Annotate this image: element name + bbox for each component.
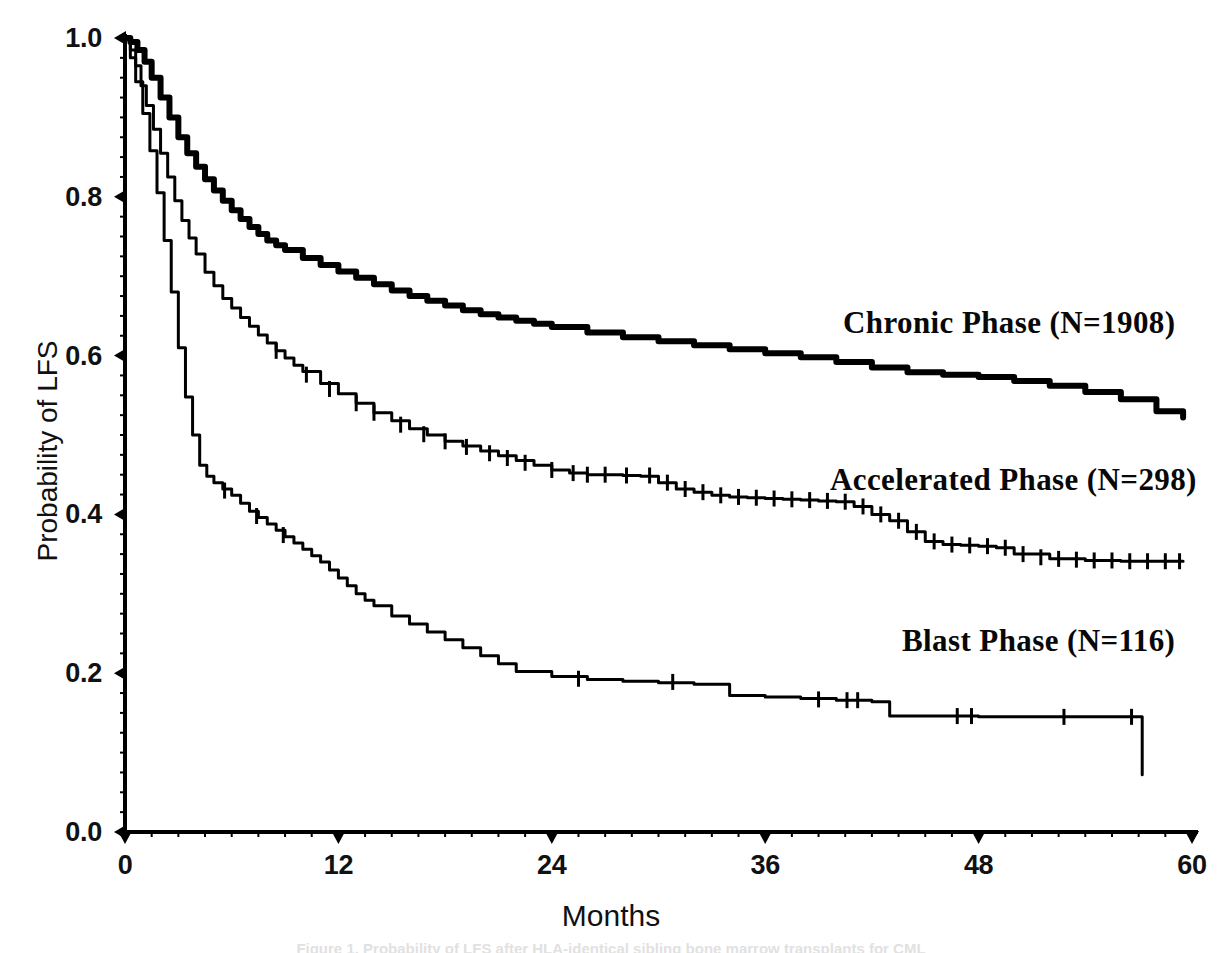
chronic-phase-label: Chronic Phase (N=1908): [843, 305, 1175, 341]
y-tick-label: 0.2: [20, 658, 102, 689]
accelerated-phase-label: Accelerated Phase (N=298): [830, 462, 1197, 498]
series-blast-phase: [125, 38, 1142, 775]
x-major-tick: [758, 831, 772, 844]
x-major-tick: [331, 831, 345, 844]
y-major-tick: [114, 190, 126, 204]
x-tick-label: 0: [118, 850, 133, 881]
x-major-tick: [1185, 831, 1199, 844]
x-tick-label: 60: [1177, 850, 1206, 881]
series-chronic-phase: [125, 38, 1183, 418]
y-tick-label: 1.0: [20, 23, 102, 54]
y-tick-label: 0.0: [20, 817, 102, 848]
x-tick-label: 36: [750, 850, 779, 881]
censor-marks: [225, 483, 1132, 725]
series-group: [125, 38, 1183, 775]
survival-curve: [125, 38, 1142, 775]
y-axis-title: Probability of LFS: [32, 291, 64, 611]
x-tick-label: 24: [537, 850, 566, 881]
x-tick-label: 12: [324, 850, 353, 881]
y-major-tick: [114, 349, 126, 363]
figure-caption-partial: Figure 1. Probability of LFS after HLA-i…: [0, 940, 1222, 953]
survival-curve: [125, 38, 1183, 418]
axis-group: [114, 31, 1199, 844]
y-major-tick: [114, 507, 126, 521]
x-tick-label: 48: [964, 850, 993, 881]
kaplan-meier-figure: 0.00.20.40.60.81.0 01224364860 Probabili…: [0, 0, 1222, 953]
y-tick-label: 0.8: [20, 181, 102, 212]
x-major-tick: [545, 831, 559, 844]
x-major-tick: [118, 831, 132, 844]
x-major-tick: [972, 831, 986, 844]
censor-marks: [276, 343, 1179, 569]
x-axis-title: Months: [0, 899, 1222, 933]
y-major-tick: [114, 666, 126, 680]
blast-phase-label: Blast Phase (N=116): [902, 623, 1175, 659]
